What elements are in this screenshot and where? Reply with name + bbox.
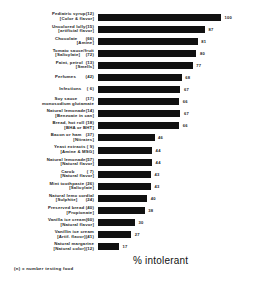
bar-label-line2: [Natural flavor] (0, 223, 94, 228)
bar (98, 122, 179, 129)
bar-label-line2: [Sulphite] (24) (0, 198, 94, 203)
chart-page: Pediatric syrup(12)[Color & flavor]100Un… (0, 0, 255, 284)
bar-track: 43 (98, 180, 255, 192)
bar-track: 67 (98, 108, 255, 120)
bar-value-label: 46 (158, 135, 163, 140)
bar-chart: Pediatric syrup(12)[Color & flavor]100Un… (0, 11, 255, 243)
bar (98, 243, 119, 250)
bar-label-line2: [Nitrates] (0, 138, 94, 143)
bar-row: Vanilla ice cream(60)[Natural flavor]30 (0, 217, 255, 229)
bar-value-label: 43 (154, 184, 159, 189)
bar-row-label: Natural lemo cordial[Sulphite] (24) (0, 194, 98, 203)
bar-row-label: Natural lemonade(57)[Natural flavor] (0, 158, 98, 167)
bar-label-line1: Infections ( 6) (0, 87, 94, 92)
bar-track: 81 (98, 35, 255, 47)
bar-row: Natural margarine[Natural color](12)17 (0, 241, 255, 253)
bar-row: Tomato sauce/fruit[Salicylate] (72)80 (0, 47, 255, 59)
bar-row-label: Uncolored lolly(15)[artificial flavor] (0, 25, 98, 34)
bar-track: 66 (98, 120, 255, 132)
bar (98, 195, 147, 202)
bar-row-label: Bread, hot roll (18)[BHA or BHT] (0, 121, 98, 130)
bar-value-label: 68 (185, 75, 190, 80)
bar-row: Natural lemonade(57)[Natural flavor]44 (0, 156, 255, 168)
bar-value-label: 77 (196, 63, 201, 68)
bar-track: 27 (98, 229, 255, 241)
bar (98, 38, 198, 45)
bar-row: Yeast extracts ( 9)[Amine & MSG]44 (0, 144, 255, 156)
bar (98, 171, 151, 178)
bar-track: 46 (98, 132, 255, 144)
bar (98, 50, 196, 57)
bar-track: 87 (98, 23, 255, 35)
bar-label-line2: [artificial flavor] (0, 29, 94, 34)
x-axis-title: % intolerant (133, 255, 188, 266)
bar-row-label: Yeast extracts ( 9)[Amine & MSG] (0, 145, 98, 154)
bar-label-line2: [Benzoate in can] (0, 114, 94, 119)
bar-row-label: Mint toothpaste (26)[Salicylate] (0, 182, 98, 191)
bar-label-line2: [Salicylate] (72) (0, 53, 94, 58)
bar-row-label: Vanillin ice cream[Artif. flavor](41) (0, 230, 98, 239)
bar-value-label: 66 (183, 99, 188, 104)
bar-value-label: 81 (201, 39, 206, 44)
bar (98, 134, 155, 141)
bar-row: Chocolate (66)[Amine]81 (0, 35, 255, 47)
bar-row: Carob ( 7)[Natural flavor]43 (0, 168, 255, 180)
bar (98, 159, 152, 166)
bar-label-line2: [Natural flavor] (0, 174, 94, 179)
bar-value-label: 67 (184, 87, 189, 92)
bar-track: 80 (98, 47, 255, 59)
bar-label-line2: [Salicylate] (0, 186, 94, 191)
bar-row: Soy sauce (17)monosodium glutamate66 (0, 96, 255, 108)
bar-value-label: 17 (122, 244, 127, 249)
bar-value-label: 87 (209, 27, 214, 32)
bar-row: Perfumes (42)68 (0, 71, 255, 83)
bar-row-label: Infections ( 6) (0, 87, 98, 92)
bar-value-label: 100 (225, 15, 233, 20)
bar-row-label: Vanilla ice cream(60)[Natural flavor] (0, 218, 98, 227)
bar-track: 100 (98, 11, 255, 23)
bar-row: Uncolored lolly(15)[artificial flavor]87 (0, 23, 255, 35)
bar-value-label: 40 (151, 196, 156, 201)
bar (98, 86, 180, 93)
bar-label-line2: monosodium glutamate (0, 102, 94, 107)
bar-row: Pediatric syrup(12)[Color & flavor]100 (0, 11, 255, 23)
bar-row-label: Pediatric syrup(12)[Color & flavor] (0, 12, 98, 21)
bar (98, 207, 145, 214)
bar (98, 219, 135, 226)
bar-track: 66 (98, 96, 255, 108)
bar-row-label: Perfumes (42) (0, 75, 98, 80)
bar (98, 26, 205, 33)
bar (98, 183, 151, 190)
bar-row-label: Carob ( 7)[Natural flavor] (0, 170, 98, 179)
bar (98, 147, 152, 154)
bar-row: Mint toothpaste (26)[Salicylate]43 (0, 180, 255, 192)
bar-row-label: Bacon or ham (37)[Nitrates] (0, 133, 98, 142)
bar-value-label: 30 (138, 220, 143, 225)
bar-label-line2: [BHA or BHT] (0, 126, 94, 131)
bar-label-line2: [Natural flavor] (0, 162, 94, 167)
bar-label-line2: [Smells] (0, 65, 94, 70)
bar-track: 44 (98, 144, 255, 156)
bar (98, 14, 221, 21)
bar-label-line2: [Amine & MSG] (0, 150, 94, 155)
bar-track: 67 (98, 84, 255, 96)
bar-track: 40 (98, 192, 255, 204)
bar-label-line1: Perfumes (42) (0, 75, 94, 80)
bar-track: 38 (98, 205, 255, 217)
bar-track: 17 (98, 241, 255, 253)
bar-row-label: Preserved bread (40)[Propionate] (0, 206, 98, 215)
bar-value-label: 67 (184, 111, 189, 116)
bar-track: 77 (98, 59, 255, 71)
bar-row-label: Soy sauce (17)monosodium glutamate (0, 97, 98, 106)
bar (98, 110, 180, 117)
bar-value-label: 80 (200, 51, 205, 56)
bar-value-label: 27 (135, 232, 140, 237)
bar (98, 62, 193, 69)
bar-value-label: 44 (156, 148, 161, 153)
bar-row-label: Paint, petrol (13)[Smells] (0, 61, 98, 70)
bar-label-line2: [Natural color](12) (0, 247, 94, 252)
bar-row: Paint, petrol (13)[Smells]77 (0, 59, 255, 71)
bar-track: 43 (98, 168, 255, 180)
bar-value-label: 44 (156, 160, 161, 165)
bar-row-label: Natural margarine[Natural color](12) (0, 242, 98, 251)
